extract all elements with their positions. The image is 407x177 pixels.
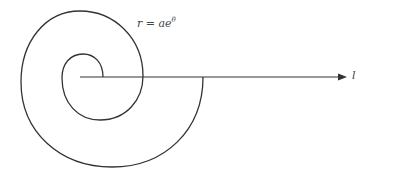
equation-label: r = aeθ <box>137 17 176 30</box>
axis-arrowhead-icon <box>338 74 347 81</box>
equation-exponent: θ <box>172 16 176 24</box>
axis-label: l <box>352 69 356 82</box>
equation-text: r = ae <box>137 17 172 30</box>
spiral-diagram <box>0 0 407 177</box>
logarithmic-spiral-curve <box>21 11 203 167</box>
